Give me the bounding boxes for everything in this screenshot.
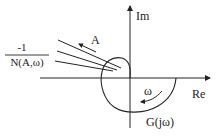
describing-function-denominator: N(A,ω): [10, 56, 44, 69]
plant-nyquist-curve: [101, 58, 176, 113]
describing-function-line-2: [57, 51, 117, 70]
describing-function-numerator: -1: [17, 41, 26, 53]
real-axis-label: Re: [192, 87, 205, 101]
frequency-label: ω: [144, 84, 152, 98]
amplitude-label: A: [91, 33, 100, 47]
nyquist-diagram: Im Re A -1 N(A,ω) ω G(jω): [0, 0, 218, 137]
imaginary-axis-label: Im: [136, 9, 150, 23]
plant-label: G(jω): [146, 115, 174, 129]
